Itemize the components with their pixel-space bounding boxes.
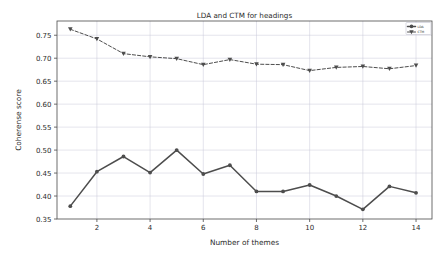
data-point-marker xyxy=(388,184,392,188)
data-point-marker xyxy=(255,190,259,194)
x-tick-label: 4 xyxy=(148,224,153,232)
data-point-marker xyxy=(308,183,312,187)
y-tick-label: 0.55 xyxy=(36,124,52,132)
y-tick-label: 0.40 xyxy=(36,193,52,201)
x-tick-label: 12 xyxy=(358,224,367,232)
x-tick-label: 10 xyxy=(305,224,314,232)
y-tick-label: 0.50 xyxy=(36,147,52,155)
data-point-marker xyxy=(334,194,338,198)
data-point-marker xyxy=(148,171,152,175)
y-axis-label: Coherense score xyxy=(14,89,23,151)
chart-figure: LDA and CTM for headings 0.350.400.450.5… xyxy=(0,0,448,256)
x-tick-label: 6 xyxy=(201,224,206,232)
data-point-marker xyxy=(228,163,232,167)
chart-legend[interactable]: LDACTM xyxy=(406,23,431,35)
data-point-marker xyxy=(122,155,126,159)
x-tick-label: 8 xyxy=(254,224,258,232)
x-tick-label: 14 xyxy=(412,224,421,232)
data-point-marker xyxy=(281,190,285,194)
legend-label: LDA xyxy=(418,25,425,29)
data-point-marker xyxy=(361,207,365,211)
x-tick-label: 2 xyxy=(95,224,99,232)
data-point-marker xyxy=(414,191,418,195)
data-point-marker xyxy=(68,204,72,208)
y-tick-label: 0.75 xyxy=(36,32,52,40)
figure-background xyxy=(0,0,448,256)
legend-label: CTM xyxy=(418,30,425,34)
data-point-marker xyxy=(201,172,205,176)
y-tick-label: 0.35 xyxy=(36,216,52,224)
y-tick-label: 0.45 xyxy=(36,170,52,178)
y-tick-label: 0.65 xyxy=(36,78,52,86)
y-tick-label: 0.70 xyxy=(36,55,52,63)
data-point-marker xyxy=(95,170,99,174)
y-tick-label: 0.60 xyxy=(36,101,52,109)
x-axis-label: Number of themes xyxy=(210,238,279,247)
chart-title: LDA and CTM for headings xyxy=(197,11,293,20)
data-point-marker xyxy=(175,148,179,152)
data-point-marker xyxy=(410,25,414,29)
